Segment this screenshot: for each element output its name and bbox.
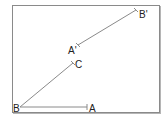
segment-bc: [20, 63, 73, 107]
label-a-prime: A': [68, 46, 77, 56]
label-a: A: [89, 104, 96, 114]
label-b-prime: B': [139, 10, 148, 20]
label-c: C: [75, 60, 82, 70]
label-b: B: [13, 104, 20, 114]
segment-a-prime-b-prime: [78, 10, 136, 45]
